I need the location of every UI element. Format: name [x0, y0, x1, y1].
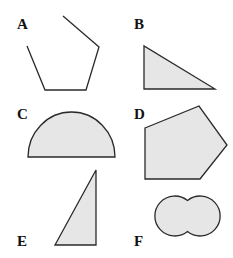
shape-e-triangle — [55, 170, 96, 245]
shape-c-semicircle — [28, 112, 115, 157]
label-f: F — [134, 233, 143, 249]
label-b: B — [134, 16, 144, 32]
shape-d-pentagon — [145, 106, 227, 179]
shape-a-open-pentagon — [27, 16, 99, 90]
label-c: C — [17, 106, 28, 122]
label-a: A — [17, 16, 28, 32]
shape-b-triangle — [144, 46, 215, 89]
label-d: D — [134, 106, 145, 122]
label-e: E — [17, 233, 27, 249]
shape-f-double-circle — [155, 196, 220, 236]
shapes-figure: A B C D E F — [0, 0, 233, 258]
